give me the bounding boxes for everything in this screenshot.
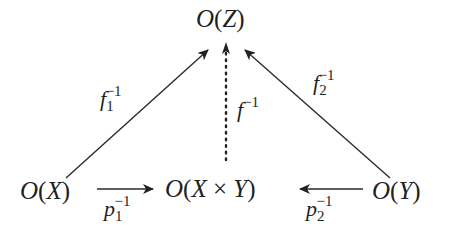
arrow-f1-inverse: [66, 50, 208, 178]
symbol-X: X: [46, 177, 61, 204]
subscript-1: 1: [115, 209, 123, 225]
symbol-Y: Y: [398, 177, 412, 204]
node-O-Z: O(Z): [196, 6, 245, 31]
label-f2-inverse: f2−1: [313, 70, 335, 99]
times-symbol: ×: [213, 175, 227, 202]
symbol-O: O: [20, 177, 38, 204]
subscript-2: 2: [319, 83, 327, 99]
node-O-X-times-Y: O(X × Y): [165, 176, 256, 201]
node-O-Y: O(Y): [372, 178, 421, 203]
superscript-inverse: −1: [319, 67, 335, 83]
subscript-2: 2: [317, 209, 325, 225]
symbol-O: O: [372, 177, 390, 204]
symbol-O: O: [165, 175, 183, 202]
label-p1-inverse: p1−1: [104, 196, 130, 225]
paren: ): [236, 5, 244, 32]
paren: ): [247, 175, 255, 202]
node-O-X: O(X): [20, 178, 70, 203]
symbol-p: p: [104, 196, 115, 221]
symbol-X: X: [191, 175, 206, 202]
symbol-Y: Y: [233, 175, 247, 202]
superscript-inverse: −1: [317, 193, 333, 209]
superscript-inverse: −1: [115, 193, 131, 209]
symbol-p: p: [306, 196, 317, 221]
symbol-O: O: [196, 5, 214, 32]
superscript-inverse: −1: [106, 83, 122, 99]
paren: ): [412, 177, 420, 204]
label-f-inverse: f−1: [237, 97, 259, 121]
superscript-inverse: −1: [243, 94, 259, 110]
label-f1-inverse: f1−1: [100, 86, 122, 115]
subscript-1: 1: [106, 99, 114, 115]
label-p2-inverse: p2−1: [306, 196, 332, 225]
paren: ): [62, 177, 70, 204]
symbol-Z: Z: [222, 5, 236, 32]
